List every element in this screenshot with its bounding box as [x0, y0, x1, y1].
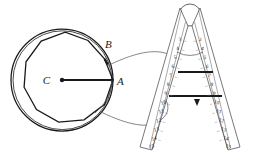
- left-arm-body: [140, 8, 188, 150]
- right-arm-body: [192, 8, 240, 150]
- label-A: A: [116, 75, 124, 87]
- label-C: C: [43, 74, 51, 86]
- right-arm: [192, 8, 240, 150]
- pointer-arrow-icon: [194, 99, 200, 106]
- circle-with-inscribed-polygon: C A B: [11, 29, 124, 131]
- proportional-compass-sector: 3 4 5 6 7 8 9 10 11 12 13 14 15 3 4 5 6 …: [140, 4, 240, 150]
- left-arm: [140, 8, 188, 150]
- figure-canvas: C A B: [0, 0, 254, 160]
- figure-svg: C A B: [0, 0, 254, 160]
- center-point-dot: [60, 78, 64, 82]
- label-B: B: [105, 38, 112, 50]
- opening-angle-arc: [177, 52, 203, 55]
